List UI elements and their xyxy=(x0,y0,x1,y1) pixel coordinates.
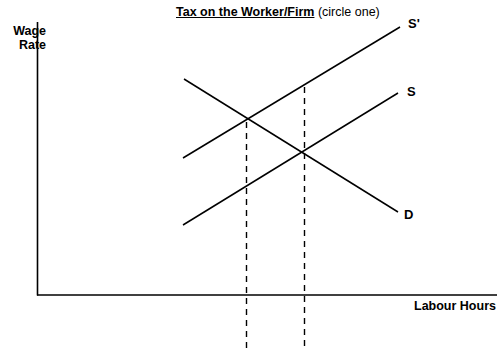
chart-title-plain: (circle one) xyxy=(314,5,379,19)
y-axis-label: Wage Rate xyxy=(2,24,46,52)
y-axis-label-line2: Rate xyxy=(2,38,46,52)
x-axis-label: Labour Hours xyxy=(414,299,496,313)
chart-title-underlined: Tax on the Worker/Firm xyxy=(176,5,314,19)
curve-label-s-prime: S' xyxy=(408,17,420,32)
curve-label-s: S xyxy=(407,85,416,100)
y-axis-label-line1: Wage xyxy=(2,24,46,38)
curve-label-d: D xyxy=(404,208,413,223)
diagram-canvas xyxy=(0,0,502,349)
curve-s xyxy=(183,93,398,225)
supply-demand-tax-diagram: Tax on the Worker/Firm (circle one) Wage… xyxy=(0,0,502,349)
curve-d xyxy=(184,79,398,212)
curve-s-prime xyxy=(183,27,400,158)
chart-title: Tax on the Worker/Firm (circle one) xyxy=(176,5,380,19)
